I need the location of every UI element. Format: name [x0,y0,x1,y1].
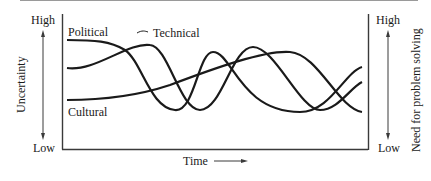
right-axis-title: Need for problem solving [410,28,422,152]
left-axis-low-label: Low [33,142,55,154]
right-axis-low-label: Low [378,142,400,154]
curve-label-political: Political [68,26,108,38]
curve-technical [67,45,362,110]
left-axis-high-label: High [31,14,55,26]
right-axis-double-arrow-icon [386,30,390,140]
x-axis-title: Time [183,155,208,167]
curve-label-cultural: Cultural [68,106,107,118]
right-axis-high-label: High [376,14,400,26]
left-axis-title: Uncertainty [15,56,27,113]
curve-cultural [67,52,362,112]
diagram-canvas [0,0,431,181]
left-axis-double-arrow-icon [41,30,45,140]
curve-label-technical: Technical [153,27,199,39]
time-arrow-icon [214,159,248,163]
technical-leader-line [137,31,148,33]
